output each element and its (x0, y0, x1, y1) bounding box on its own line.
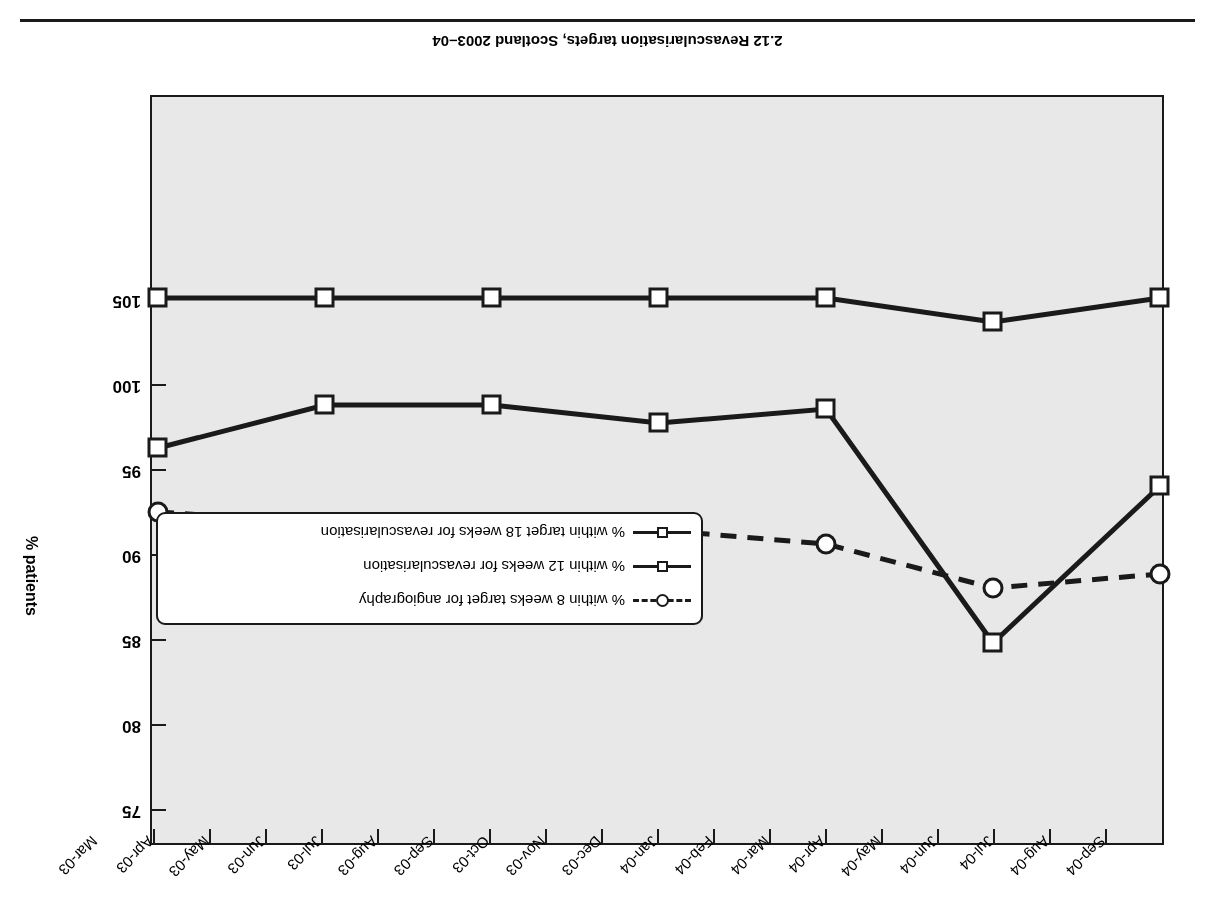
y-tick-label: 95 (122, 461, 141, 481)
square-solid-line-icon (633, 560, 691, 574)
y-tick-label: 75 (122, 801, 141, 821)
y-tick-label: 85 (122, 631, 141, 651)
y-tick-label: 100 (113, 376, 141, 396)
square-solid-line-icon (633, 526, 691, 540)
legend-label: % within 8 weeks target for angiography (359, 593, 625, 610)
x-tick-label: Apr-03 (113, 833, 157, 877)
title-divider (20, 19, 1195, 22)
y-tick-label: 80 (122, 716, 141, 736)
legend-item-angiography: % within 8 weeks target for angiography (359, 586, 691, 616)
legend-item-12-weeks: % within 12 weeks for revascularisation (363, 552, 691, 582)
chart-legend: % within 8 weeks target for angiography … (156, 512, 703, 625)
chart-figure: % within 8 weeks target for angiography … (0, 0, 1215, 906)
series-18-weeks (149, 289, 1168, 330)
y-axis-title: % patients (22, 536, 40, 616)
circle-dashed-line-icon (633, 594, 691, 608)
chart-canvas (152, 97, 1162, 843)
plot-area: % within 8 weeks target for angiography … (150, 95, 1164, 845)
x-tick-label: Mar-03 (55, 833, 101, 879)
legend-label: % within target 18 weeks for revasculari… (321, 525, 625, 542)
x-axis-ticks (154, 829, 1106, 843)
legend-label: % within 12 weeks for revascularisation (363, 559, 625, 576)
y-tick-label: 105 (113, 291, 141, 311)
chart-title: 2.12 Revascularisation targets, Scotland… (0, 33, 1215, 50)
y-tick-label: 90 (122, 546, 141, 566)
legend-item-18-weeks: % within target 18 weeks for revasculari… (321, 518, 691, 548)
